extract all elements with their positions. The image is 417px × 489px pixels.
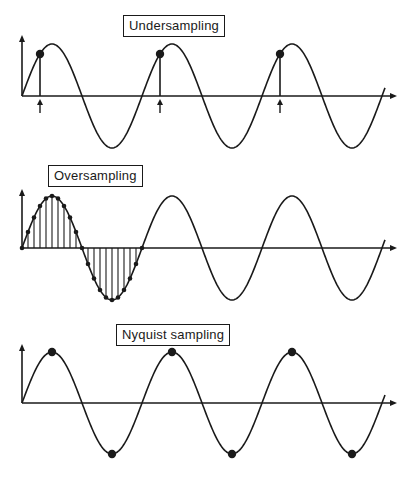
sample-dot [48,348,56,356]
y-axis-arrow-icon [19,35,25,42]
sample-dot [156,50,164,58]
sample-dot [26,230,31,235]
sample-dot [32,215,37,220]
sample-dot [20,246,25,251]
sample-dot [92,276,97,281]
sample-arrow-icon [157,99,163,105]
sample-dot [38,204,43,209]
sample-dot [104,295,109,300]
sample-dot [168,348,176,356]
sample-dot [288,348,296,356]
sample-dot [50,194,55,199]
sample-dot [128,276,133,281]
sample-arrow-icon [37,99,43,105]
y-axis-arrow-icon [19,344,25,351]
sample-dot [36,50,44,58]
sample-dot [80,246,85,251]
panel-oversampling [19,189,397,302]
nyquist-sampling-label: Nyquist sampling [116,324,230,346]
sample-arrow-icon [277,99,283,105]
undersampling-label: Undersampling [123,15,225,37]
x-axis-arrow-icon [390,93,397,99]
sample-dot [44,196,49,201]
panel-nyquist [19,344,397,458]
sample-dot [122,288,127,293]
y-axis-arrow-icon [19,189,25,196]
sample-dot [108,450,116,458]
sample-dot [348,450,356,458]
x-axis-arrow-icon [390,400,397,406]
sample-dot [56,196,61,201]
sample-dot [116,295,121,300]
sample-dot [98,288,103,293]
sample-dot [74,230,79,235]
sample-dot [110,298,115,303]
sampling-diagram [0,0,417,489]
panel-undersampling [19,35,397,148]
oversampling-label: Oversampling [48,165,143,187]
sample-dot [86,262,91,267]
sample-dot [276,50,284,58]
x-axis-arrow-icon [390,245,397,251]
sample-dot [228,450,236,458]
sample-dot [62,204,67,209]
sample-dot [140,246,145,251]
sample-dot [134,262,139,267]
sample-dot [68,215,73,220]
